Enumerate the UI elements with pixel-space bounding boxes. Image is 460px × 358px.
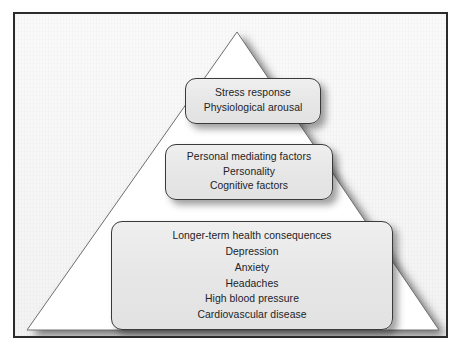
level-bottom-line-4: Headaches bbox=[225, 276, 278, 292]
level-box-middle: Personal mediating factors Personality C… bbox=[165, 144, 333, 200]
figure-frame: Stress response Physiological arousal Pe… bbox=[13, 12, 448, 338]
level-bottom-line-1: Longer-term health consequences bbox=[172, 228, 331, 244]
level-box-top: Stress response Physiological arousal bbox=[185, 78, 321, 124]
level-bottom-line-6: Cardiovascular disease bbox=[197, 307, 306, 323]
level-box-bottom: Longer-term health consequences Depressi… bbox=[111, 221, 393, 330]
level-bottom-line-3: Anxiety bbox=[235, 260, 269, 276]
level-middle-line-3: Cognitive factors bbox=[210, 179, 288, 194]
level-top-line-1: Stress response bbox=[215, 86, 291, 101]
level-bottom-line-2: Depression bbox=[225, 244, 278, 260]
level-bottom-line-5: High blood pressure bbox=[205, 291, 299, 307]
figure-canvas: Stress response Physiological arousal Pe… bbox=[0, 0, 460, 358]
level-middle-line-1: Personal mediating factors bbox=[187, 150, 311, 165]
level-middle-line-2: Personality bbox=[223, 165, 275, 180]
pyramid-diagram: Stress response Physiological arousal Pe… bbox=[15, 14, 446, 336]
level-top-line-2: Physiological arousal bbox=[204, 101, 303, 116]
